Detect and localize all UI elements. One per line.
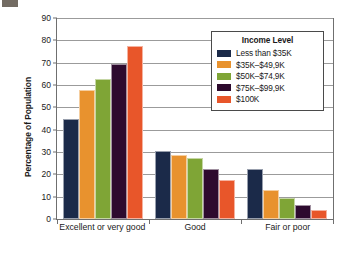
legend-swatch-icon	[217, 84, 231, 91]
scan-artifact	[2, 0, 18, 7]
legend-item-label: Less than $35K	[236, 48, 292, 58]
y-axis-tick-label: 0	[5, 214, 57, 224]
legend-item[interactable]: $50K–$74,9K	[217, 71, 318, 81]
bar	[203, 169, 219, 219]
x-axis-label: Good	[149, 222, 242, 234]
bar	[187, 158, 203, 219]
bar	[247, 169, 263, 219]
legend-items: Less than $35K$35K–$49,9K$50K–$74,9K$75K…	[217, 48, 318, 104]
legend-item[interactable]: $35K–$49,9K	[217, 60, 318, 70]
bar	[111, 64, 127, 219]
legend-item[interactable]: Less than $35K	[217, 48, 318, 58]
legend-swatch-icon	[217, 96, 231, 103]
legend-item[interactable]: $100K	[217, 94, 318, 104]
bar	[295, 205, 311, 219]
y-axis-tick-label: 80	[5, 35, 57, 45]
bar	[95, 79, 111, 219]
bar	[279, 198, 295, 219]
bar-chart: Percentage of Population 908070605040302…	[0, 0, 344, 262]
x-axis-labels: Excellent or very goodGoodFair or poor	[56, 222, 334, 234]
legend-item-label: $50K–$74,9K	[236, 71, 285, 81]
legend-swatch-icon	[217, 61, 231, 68]
y-axis-tick-label: 40	[5, 125, 57, 135]
y-axis-tick-label: 20	[5, 169, 57, 179]
bar	[171, 155, 187, 219]
bar	[127, 46, 143, 219]
y-axis-tick-label: 60	[5, 80, 57, 90]
bar	[79, 90, 95, 219]
legend-title: Income Level	[217, 35, 318, 45]
legend-swatch-icon	[217, 73, 231, 80]
bar	[263, 190, 279, 219]
x-axis-label: Excellent or very good	[56, 222, 149, 234]
legend-item-label: $35K–$49,9K	[236, 60, 285, 70]
y-axis-tick-label: 30	[5, 147, 57, 157]
legend-item-label: $75K–$99,9K	[236, 83, 285, 93]
legend-item[interactable]: $75K–$99,9K	[217, 83, 318, 93]
bar-group	[57, 18, 149, 219]
x-axis-label: Fair or poor	[241, 222, 334, 234]
bar	[63, 119, 79, 219]
y-axis-tick-label: 90	[5, 13, 57, 23]
bar	[311, 210, 327, 219]
y-axis-tick-label: 50	[5, 102, 57, 112]
legend-item-label: $100K	[236, 94, 259, 104]
legend-swatch-icon	[217, 50, 231, 57]
y-axis-tick-label: 70	[5, 58, 57, 68]
bar	[155, 151, 171, 219]
legend: Income Level Less than $35K$35K–$49,9K$5…	[211, 31, 324, 111]
y-axis-tick-label: 10	[5, 192, 57, 202]
bar	[219, 180, 235, 219]
